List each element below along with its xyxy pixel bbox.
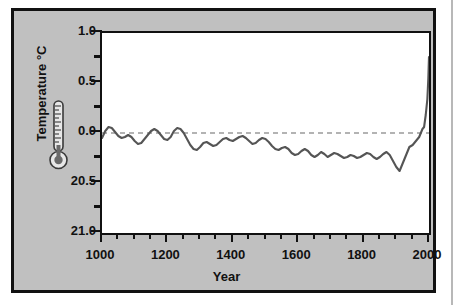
x-tick-minor [329,233,331,239]
x-tick-label: 1200 [135,247,195,262]
x-tick-major [231,233,233,242]
x-tick-minor [133,233,135,239]
temperature-line-chart [102,33,429,233]
x-tick-label: 1000 [70,247,130,262]
x-axis-title: Year [14,269,439,284]
x-tick-minor [411,233,413,239]
plot-area [100,31,431,235]
x-tick-label: 2000 [397,247,457,262]
x-tick-minor [313,233,315,239]
x-tick-minor [345,233,347,239]
x-tick-minor [280,233,282,239]
x-axis-ticks [100,233,431,245]
x-tick-minor [378,233,380,239]
x-tick-label: 1800 [332,247,392,262]
x-axis-tick-labels: 100012001400160018002000 [14,247,439,265]
x-tick-minor [247,233,249,239]
x-tick-major [362,233,364,242]
x-tick-major [296,233,298,242]
x-tick-major [427,233,429,242]
x-tick-minor [149,233,151,239]
x-tick-minor [214,233,216,239]
x-tick-minor [264,233,266,239]
x-tick-major [100,233,102,242]
x-tick-minor [394,233,396,239]
chart-figure: Temperature °C 1.00.50.020.521.0 [11,8,436,293]
x-tick-major [165,233,167,242]
temperature-series-line [102,57,429,171]
x-tick-minor [198,233,200,239]
x-tick-minor [116,233,118,239]
x-tick-minor [182,233,184,239]
x-tick-label: 1400 [201,247,261,262]
x-tick-label: 1600 [266,247,326,262]
